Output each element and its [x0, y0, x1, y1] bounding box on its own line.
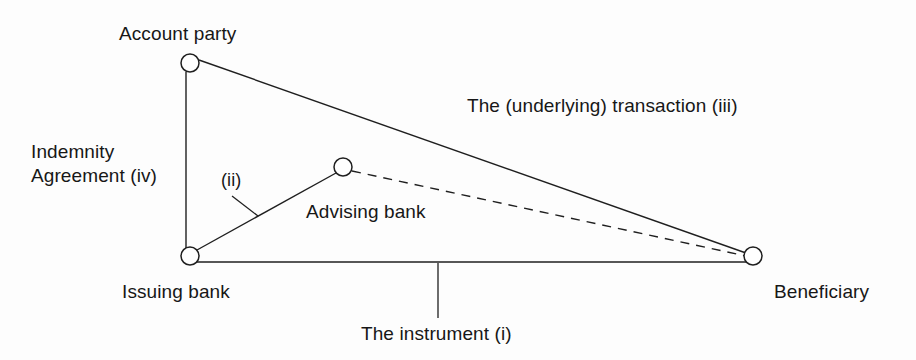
- node-beneficiary[interactable]: [744, 247, 762, 265]
- node-issuing-bank[interactable]: [181, 247, 199, 265]
- node-label-advising-bank: Advising bank: [306, 200, 426, 223]
- edge-label-advice-ii: (ii): [221, 169, 241, 192]
- diagram-canvas: Account party The (underlying) transacti…: [0, 0, 916, 360]
- leader-line-ii: [232, 196, 258, 216]
- node-label-account-party: Account party: [119, 22, 236, 45]
- edge-label-indemnity-agreement: Indemnity Agreement (iv): [31, 140, 157, 188]
- edge-transaction-line: [199, 60, 746, 253]
- edge-label-instrument: The instrument (i): [361, 322, 512, 345]
- node-label-beneficiary: Beneficiary: [774, 280, 869, 303]
- edge-label-transaction: The (underlying) transaction (iii): [467, 94, 738, 117]
- node-advising-bank[interactable]: [334, 158, 352, 176]
- node-label-issuing-bank: Issuing bank: [122, 280, 230, 303]
- node-account-party[interactable]: [181, 54, 199, 72]
